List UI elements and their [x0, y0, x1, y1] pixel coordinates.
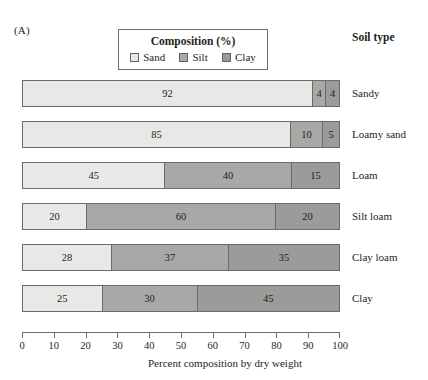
x-axis-tick-label: 90 — [303, 340, 314, 351]
bar-segment-value: 5 — [329, 129, 334, 140]
bar-segment-clay: 35 — [228, 245, 339, 270]
x-axis-tick-label: 40 — [144, 340, 155, 351]
bar-segment-sand: 85 — [23, 122, 290, 147]
bar-segment-clay: 5 — [322, 122, 339, 147]
bar-segment-value: 20 — [49, 211, 60, 222]
bar-segment-clay: 4 — [325, 81, 339, 106]
x-axis-tick-label: 100 — [332, 340, 348, 351]
bar-segment-clay: 15 — [291, 163, 339, 188]
bar-segment-silt: 30 — [102, 286, 197, 311]
x-axis-tick-label: 50 — [176, 340, 187, 351]
bar-segment-value: 85 — [151, 129, 162, 140]
bar-segment-silt: 4 — [312, 81, 326, 106]
x-axis-tick — [117, 332, 118, 338]
x-axis-tick — [149, 332, 150, 338]
bar-segment-value: 28 — [62, 252, 73, 263]
bar-segment-sand: 25 — [23, 286, 102, 311]
x-axis-title: Percent composition by dry weight — [126, 357, 302, 369]
x-axis-tick-label: 30 — [112, 340, 123, 351]
bar-segment-silt: 40 — [164, 163, 291, 188]
bar-segment-value: 92 — [162, 88, 173, 99]
bar-segment-clay: 20 — [275, 204, 339, 229]
x-axis — [22, 332, 340, 340]
x-axis-title-wrap: Percent composition by dry weight — [0, 357, 428, 369]
bar-segment-value: 20 — [302, 211, 313, 222]
bar-segment-sand: 92 — [23, 81, 312, 106]
soil-type-label: Loam — [352, 169, 378, 181]
bar-segment-value: 40 — [223, 170, 234, 181]
bar-segment-sand: 45 — [23, 163, 164, 188]
x-axis-tick-label: 80 — [271, 340, 282, 351]
bar-segment-clay: 45 — [197, 286, 339, 311]
x-axis-tick-label: 0 — [19, 340, 24, 351]
figure-panel-a: (A) Composition (%) SandSiltClay Soil ty… — [0, 0, 428, 380]
x-axis-tick-label: 60 — [208, 340, 219, 351]
bar-segment-sand: 28 — [23, 245, 111, 270]
soil-type-label: Clay — [352, 292, 373, 304]
x-axis-tick — [54, 332, 55, 338]
bar-segment-silt: 10 — [290, 122, 322, 147]
bar-segment-value: 25 — [57, 293, 68, 304]
x-axis-tick-label: 70 — [239, 340, 250, 351]
bar-row: 454015 — [22, 162, 340, 189]
bar-segment-value: 10 — [301, 129, 312, 140]
soil-type-label: Loamy sand — [352, 128, 406, 140]
bar-segment-value: 4 — [317, 88, 322, 99]
soil-type-label: Clay loam — [352, 251, 398, 263]
bar-segment-silt: 60 — [86, 204, 275, 229]
stacked-bar-plot-area: 9244Sandy85105Loamy sand454015Loam206020… — [0, 0, 428, 380]
bar-segment-value: 35 — [279, 252, 290, 263]
x-axis-tick — [339, 332, 340, 338]
bar-row: 253045 — [22, 285, 340, 312]
x-axis-tick-label: 20 — [80, 340, 91, 351]
x-axis-tick — [86, 332, 87, 338]
x-axis-tick — [276, 332, 277, 338]
soil-type-label: Silt loam — [352, 210, 392, 222]
x-axis-tick — [245, 332, 246, 338]
bar-segment-value: 15 — [310, 170, 321, 181]
x-axis-tick-label: 10 — [49, 340, 60, 351]
bar-segment-silt: 37 — [111, 245, 228, 270]
x-axis-tick — [213, 332, 214, 338]
bar-segment-value: 45 — [263, 293, 274, 304]
bar-row: 9244 — [22, 80, 340, 107]
bar-segment-value: 45 — [88, 170, 99, 181]
x-axis-tick — [308, 332, 309, 338]
x-axis-tick — [22, 332, 23, 338]
x-axis-tick — [181, 332, 182, 338]
bar-segment-sand: 20 — [23, 204, 86, 229]
bar-segment-value: 60 — [176, 211, 187, 222]
bar-row: 206020 — [22, 203, 340, 230]
bar-row: 283735 — [22, 244, 340, 271]
bar-segment-value: 4 — [330, 88, 335, 99]
bar-segment-value: 37 — [165, 252, 176, 263]
bar-row: 85105 — [22, 121, 340, 148]
soil-type-label: Sandy — [352, 87, 380, 99]
bar-segment-value: 30 — [144, 293, 155, 304]
